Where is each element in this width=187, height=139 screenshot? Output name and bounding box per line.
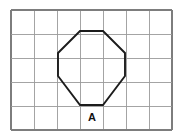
figure-container: A bbox=[0, 0, 187, 139]
octagon-grid-figure: A bbox=[0, 0, 187, 139]
shape-label-a: A bbox=[88, 111, 96, 123]
